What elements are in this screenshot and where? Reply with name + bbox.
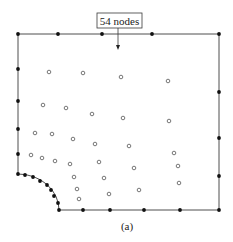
interior-node: [77, 197, 81, 201]
interior-node: [41, 103, 45, 107]
figure-caption: (a): [121, 220, 134, 233]
interior-node: [121, 116, 125, 120]
interior-node: [127, 144, 131, 148]
interior-node: [90, 112, 94, 116]
interior-node: [172, 151, 176, 155]
boundary-node: [150, 32, 154, 36]
interior-node: [29, 153, 33, 157]
interior-node: [176, 164, 180, 168]
boundary-node: [108, 208, 112, 212]
interior-node: [75, 187, 79, 191]
boundary-node: [16, 32, 20, 36]
boundary-node: [16, 152, 20, 156]
interior-node: [71, 137, 75, 141]
interior-node: [107, 192, 111, 196]
boundary-node: [217, 208, 221, 212]
interior-node: [40, 156, 44, 160]
interior-node: [137, 188, 141, 192]
boundary-node: [81, 208, 85, 212]
boundary-node: [16, 67, 20, 71]
boundary-node: [217, 174, 221, 178]
interior-node: [64, 106, 68, 110]
boundary-node: [16, 99, 20, 103]
interior-node: [102, 176, 106, 180]
interior-node: [93, 142, 97, 146]
boundary-node: [52, 194, 56, 198]
boundary-node: [217, 136, 221, 140]
boundary-nodes: [16, 32, 221, 212]
interior-node: [81, 71, 85, 75]
boundary-node: [49, 188, 53, 192]
interior-node: [132, 166, 136, 170]
boundary-node: [142, 208, 146, 212]
interior-node: [47, 70, 51, 74]
boundary-node: [217, 90, 221, 94]
callout-label: 54 nodes: [100, 15, 139, 27]
node-count-callout: 54 nodes: [97, 13, 142, 50]
boundary-node: [45, 183, 49, 187]
boundary-node: [217, 32, 221, 36]
node-distribution-diagram: 54 nodes (a): [0, 0, 233, 242]
boundary-node: [16, 172, 20, 176]
boundary-node: [100, 32, 104, 36]
boundary-node: [178, 208, 182, 212]
arrow-head-icon: [116, 45, 120, 50]
interior-node: [177, 181, 181, 185]
boundary-node: [56, 32, 60, 36]
interior-nodes: [29, 70, 181, 201]
boundary-node: [31, 175, 35, 179]
interior-node: [50, 132, 54, 136]
interior-node: [167, 119, 171, 123]
interior-node: [72, 175, 76, 179]
interior-node: [166, 79, 170, 83]
interior-node: [33, 131, 37, 135]
interior-node: [53, 159, 57, 163]
boundary-node: [23, 173, 27, 177]
interior-node: [119, 75, 123, 79]
boundary-node: [38, 179, 42, 183]
interior-node: [68, 162, 72, 166]
boundary-node: [57, 208, 61, 212]
interior-node: [97, 160, 101, 164]
boundary-node: [16, 127, 20, 131]
boundary-node: [56, 201, 60, 205]
